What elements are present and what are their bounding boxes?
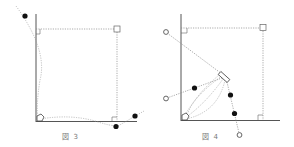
fig4-lower-dashed-line [227,82,239,133]
fig4-dot-middle [228,92,233,97]
fig4-origin-marker [182,113,189,120]
fig3-dot-top [22,13,27,18]
fig3-dot-bottom [113,124,118,129]
fig4-open-circle-left [164,96,169,101]
fig4-arc-3 [186,80,225,119]
fig4-upper-dashed-line [167,33,222,74]
fig4-dot-lower [232,111,237,116]
fig4-open-circle-bottom [237,133,242,138]
fig3-caption: 図 3 [62,131,78,141]
fig3-bottom-arc [40,111,144,126]
fig4-right-angle-bottom [258,115,263,120]
fig4-caption-prefix: 図 [202,133,209,141]
diagram-canvas [0,0,294,147]
fig4-open-circle-top [164,30,169,35]
fig3-right-angle-top [36,29,40,34]
fig3-caption-prefix: 図 [62,133,69,141]
fig3-left-arc [16,6,42,118]
fig4-right-angle-top [181,28,187,33]
figure-4 [164,14,280,137]
fig3-dot-right [132,113,137,118]
fig3-caption-number: 3 [73,133,77,141]
fig4-corner-square [260,25,266,31]
fig4-arc-4 [186,75,219,119]
fig3-right-angle-bottom [112,117,117,121]
fig4-dot-left [192,85,197,90]
fig3-origin-pentagon [37,114,44,121]
fig3-corner-square [114,26,120,32]
fig4-slanted-rectangle [218,71,230,82]
fig4-arc-1 [184,76,222,117]
figure-3 [16,6,144,129]
fig4-caption-number: 4 [213,133,217,141]
fig4-caption: 図 4 [202,131,218,141]
